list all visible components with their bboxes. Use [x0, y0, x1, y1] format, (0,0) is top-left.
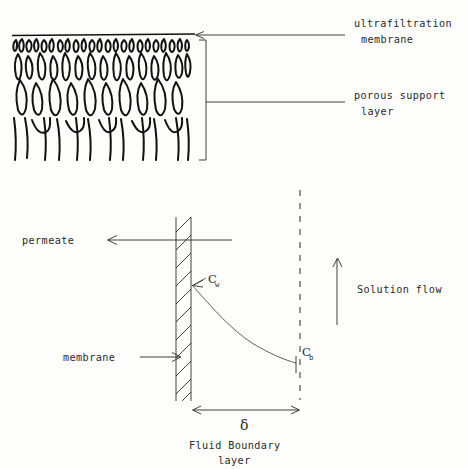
diagram-svg: ultrafiltration membrane porous support … [0, 0, 468, 469]
solution-flow-arrowhead [333, 258, 342, 267]
permeate-label: permeate [22, 235, 74, 246]
c-bulk-subscript: b [309, 353, 314, 362]
skin-layer-pores [13, 39, 189, 52]
bottom-finger-channels [14, 118, 189, 160]
figure-canvas: ultrafiltration membrane porous support … [0, 0, 468, 469]
membrane-skin-line [12, 34, 195, 36]
c-wall-subscript: w [215, 280, 220, 289]
membrane-hatching [176, 217, 191, 401]
delta-symbol-label: δ [240, 417, 248, 433]
porous-support-layer-label-line1: porous support [354, 90, 445, 101]
fluid-boundary-layer-label-line1: Fluid Boundary [189, 440, 280, 451]
ultrafiltration-membrane-label-line2: membrane [361, 34, 413, 45]
midlayer-pores [15, 53, 191, 80]
porous-support-layer-label-line2: layer [361, 106, 394, 117]
concentration-profile-curve [192, 285, 296, 363]
membrane-label: membrane [63, 352, 115, 363]
membrane-cross-section: ultrafiltration membrane porous support … [12, 18, 452, 160]
fluid-boundary-layer-label-line2: layer [218, 455, 251, 466]
solution-flow-label: Solution flow [357, 284, 442, 295]
porous-layer-bracket [199, 40, 206, 160]
concentration-polarization-schematic: permeate membrane C w C b Solution flow [22, 190, 442, 466]
ultrafiltration-membrane-label-line1: ultrafiltration [354, 18, 452, 29]
macrovoid-pores [16, 79, 182, 115]
c-wall-leader-arrowhead [193, 280, 204, 287]
